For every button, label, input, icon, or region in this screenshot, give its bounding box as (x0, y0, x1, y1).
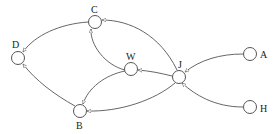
edge-j-to-b (87, 83, 175, 111)
node-label: H (260, 103, 267, 114)
node-label: B (76, 120, 83, 131)
node-label: W (126, 51, 136, 62)
edge-b-to-d (23, 64, 75, 106)
graph-diagram: C D W J A H B (0, 0, 279, 134)
node-d: D (12, 39, 25, 65)
node-label: C (91, 4, 98, 15)
node-label: J (178, 59, 182, 70)
node-circle (12, 52, 25, 65)
node-circle (125, 63, 138, 76)
graph-svg: C D W J A H B (0, 0, 279, 134)
edge-w-to-b (83, 71, 125, 104)
node-circle (74, 105, 87, 118)
edge-j-to-c (102, 20, 177, 70)
node-j: J (173, 59, 186, 84)
edge-w-to-c (91, 29, 125, 70)
edge-h-to-j (182, 83, 243, 107)
node-circle (244, 48, 257, 61)
node-circle (244, 101, 257, 114)
edge-a-to-j (185, 54, 243, 72)
node-circle (173, 71, 186, 84)
edge-c-to-d (23, 22, 88, 52)
node-c: C (89, 4, 102, 29)
node-a: A (244, 48, 269, 61)
node-circle (89, 16, 102, 29)
node-w: W (125, 51, 138, 76)
node-h: H (244, 101, 268, 115)
node-label: D (12, 39, 19, 50)
edge-j-to-w (138, 70, 172, 76)
node-label: A (260, 49, 268, 60)
node-b: B (74, 105, 87, 132)
